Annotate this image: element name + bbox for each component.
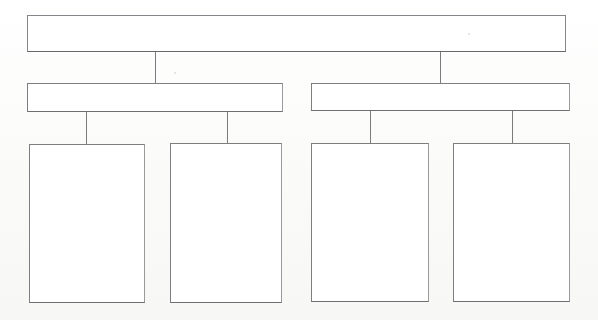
node-root-label — [28, 16, 565, 51]
diagram-canvas — [0, 0, 598, 320]
node-branch-right-label — [312, 84, 569, 110]
node-branch-left-label — [28, 84, 282, 111]
connector-root-to-branch-left — [155, 52, 156, 83]
connector-branch-left-to-leaf-1 — [86, 112, 87, 144]
node-leaf-3[interactable] — [311, 143, 429, 302]
node-leaf-3-label — [312, 144, 428, 301]
node-leaf-2-label — [171, 144, 281, 302]
node-leaf-4-label — [454, 144, 569, 301]
connector-branch-right-to-leaf-4 — [512, 111, 513, 143]
node-root[interactable] — [27, 15, 566, 52]
node-leaf-1[interactable] — [29, 144, 145, 303]
node-branch-left[interactable] — [27, 83, 283, 112]
connector-branch-right-to-leaf-3 — [370, 111, 371, 143]
node-leaf-1-label — [30, 145, 144, 302]
connector-root-to-branch-right — [440, 52, 441, 83]
node-leaf-4[interactable] — [453, 143, 570, 302]
scan-speck-upper-right — [468, 33, 470, 35]
scan-speck-mid-left — [174, 72, 176, 74]
node-branch-right[interactable] — [311, 83, 570, 111]
node-leaf-2[interactable] — [170, 143, 282, 303]
connector-branch-left-to-leaf-2 — [227, 112, 228, 143]
